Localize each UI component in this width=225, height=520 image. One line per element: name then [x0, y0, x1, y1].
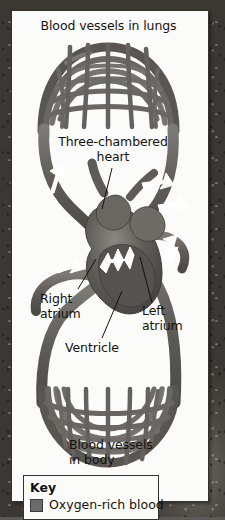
key-swatch-icon	[30, 499, 43, 512]
arrow-right-vessel-down	[163, 235, 178, 263]
key-title: Key	[30, 480, 152, 495]
key-strip: Key Oxygen-rich blood	[11, 410, 207, 517]
key-item-oxygen-rich-blood: Oxygen-rich blood	[30, 498, 152, 512]
label-ventricle: Ventricle	[65, 341, 151, 356]
lung-capillary-bed	[42, 45, 175, 131]
label-left-atrium: Left atrium	[142, 304, 204, 333]
label-right-atrium: Right atrium	[40, 292, 104, 321]
label-three-chambered-heart: Three-chambered heart	[54, 135, 172, 164]
right-atrium-chamber	[96, 195, 130, 230]
key-item-label: Oxygen-rich blood	[49, 498, 164, 512]
left-atrium-chamber	[130, 207, 165, 242]
label-blood-vessels-lungs: Blood vessels in lungs	[12, 19, 205, 34]
key-box: Key Oxygen-rich blood	[23, 475, 159, 520]
